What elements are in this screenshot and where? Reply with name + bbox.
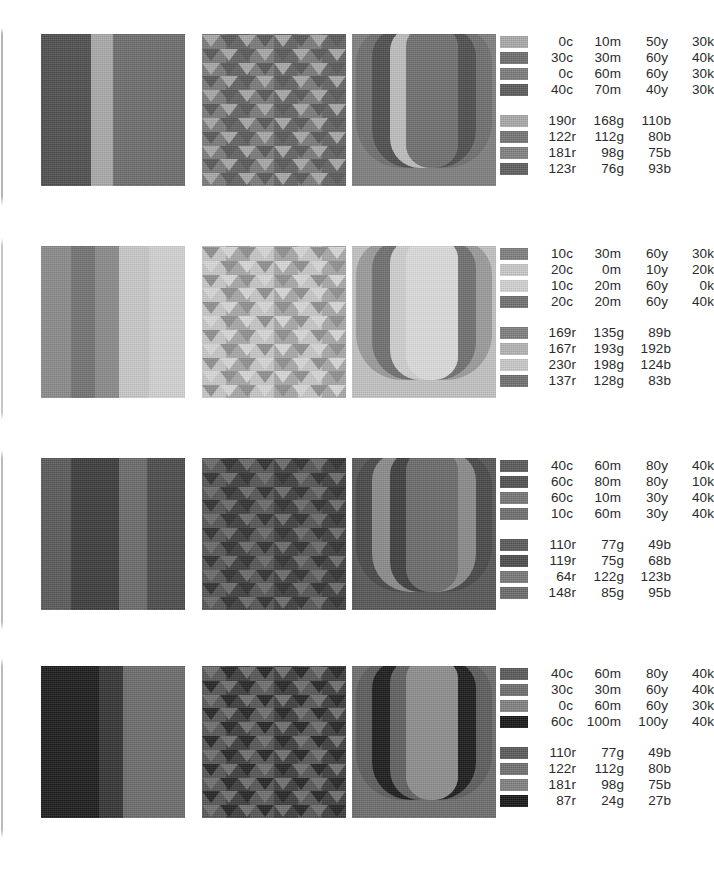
cmyk-legend-row[interactable]: 40c60m80y40k: [500, 458, 710, 474]
paper-grain-overlay: [500, 460, 528, 472]
blue-value: 68b: [624, 554, 671, 568]
yellow-value: 80y: [621, 459, 668, 473]
rgb-legend-row[interactable]: 110r77g49b: [500, 537, 710, 553]
triangle-glyph: [220, 316, 238, 328]
triangle-glyph: [202, 514, 220, 526]
triangle-glyph: [274, 302, 292, 314]
rgb-legend-row[interactable]: 148r85g95b: [500, 585, 710, 601]
rgb-legend-row[interactable]: 123r76g93b: [500, 161, 710, 177]
triangle-glyph: [256, 778, 274, 790]
green-value: 76g: [576, 162, 624, 176]
triangle-glyph: [328, 528, 346, 540]
color-swatch: [500, 327, 528, 339]
cmyk-values: 40c70m40y30k: [539, 83, 714, 97]
rgb-legend-group: 110r77g49b122r112g80b181r98g75b87r24g27b: [500, 745, 710, 809]
cmyk-values: 0c10m50y30k: [539, 35, 714, 49]
triangle-glyph: [256, 146, 274, 158]
stripe-band: [99, 666, 123, 818]
rgb-legend-row[interactable]: 167r193g192b: [500, 341, 710, 357]
triangle-glyph: [292, 459, 310, 471]
black-value: 30k: [668, 699, 714, 713]
triangle-glyph: [274, 90, 292, 102]
triangle-glyph: [202, 173, 220, 185]
color-swatch: [500, 492, 528, 504]
rgb-legend-row[interactable]: 230r198g124b: [500, 357, 710, 373]
cmyk-legend-row[interactable]: 10c60m30y40k: [500, 506, 710, 522]
paper-grain-overlay: [500, 115, 528, 127]
triangle-field: [202, 458, 346, 610]
rgb-values: 119r75g68b: [539, 554, 671, 568]
triangle-glyph: [274, 805, 292, 817]
triangle-glyph: [202, 695, 220, 707]
rgb-legend-row[interactable]: 87r24g27b: [500, 793, 710, 809]
rgb-legend-row[interactable]: 181r98g75b: [500, 145, 710, 161]
triangle-glyph: [202, 275, 220, 287]
cmyk-values: 60c100m100y40k: [539, 715, 714, 729]
triangle-glyph: [274, 132, 292, 144]
paper-grain-overlay: [500, 36, 528, 48]
triangle-glyph: [274, 63, 292, 75]
rgb-legend-row[interactable]: 122r112g80b: [500, 761, 710, 777]
triangle-glyph: [238, 473, 256, 485]
triangle-glyph: [274, 695, 292, 707]
triangle-glyph: [310, 275, 328, 287]
triangle-glyph: [328, 473, 346, 485]
rgb-legend-row[interactable]: 110r77g49b: [500, 745, 710, 761]
triangle-glyph: [310, 330, 328, 342]
cmyk-legend-row[interactable]: 20c20m60y40k: [500, 294, 710, 310]
triangle-glyph: [238, 76, 256, 88]
blue-value: 93b: [624, 162, 671, 176]
black-value: 40k: [668, 667, 714, 681]
cmyk-legend-row[interactable]: 60c10m30y40k: [500, 490, 710, 506]
rgb-legend-row[interactable]: 137r128g83b: [500, 373, 710, 389]
color-swatch: [500, 84, 528, 96]
triangle-glyph: [292, 344, 310, 356]
rgb-legend-row[interactable]: 169r135g89b: [500, 325, 710, 341]
color-scheme-row: 0c10m50y30k30c30m60y40k0c60m60y30k40c70m…: [0, 34, 710, 186]
cmyk-legend-row[interactable]: 0c10m50y30k: [500, 34, 710, 50]
cyan-value: 0c: [539, 699, 573, 713]
cmyk-legend-row[interactable]: 10c30m60y30k: [500, 246, 710, 262]
rgb-legend-row[interactable]: 181r98g75b: [500, 777, 710, 793]
triangle-glyph: [274, 681, 292, 693]
cmyk-legend-row[interactable]: 40c70m40y30k: [500, 82, 710, 98]
triangle-glyph: [292, 118, 310, 130]
triangle-glyph: [220, 487, 238, 499]
black-value: 40k: [668, 683, 714, 697]
triangle-glyph: [292, 371, 310, 383]
cmyk-legend-group: 0c10m50y30k30c30m60y40k0c60m60y30k40c70m…: [500, 34, 710, 98]
rgb-legend-row[interactable]: 122r112g80b: [500, 129, 710, 145]
cmyk-legend-row[interactable]: 0c60m60y30k: [500, 698, 710, 714]
cmyk-legend-row[interactable]: 0c60m60y30k: [500, 66, 710, 82]
cmyk-legend-row[interactable]: 30c30m60y40k: [500, 682, 710, 698]
triangle-glyph: [328, 500, 346, 512]
stripe-band: [73, 666, 99, 818]
rgb-legend-row[interactable]: 190r168g110b: [500, 113, 710, 129]
triangle-glyph: [238, 681, 256, 693]
rgb-legend-row[interactable]: 64r122g123b: [500, 569, 710, 585]
cmyk-legend-row[interactable]: 60c100m100y40k: [500, 714, 710, 730]
triangle-glyph: [274, 500, 292, 512]
triangle-glyph: [328, 132, 346, 144]
triangle-glyph: [256, 90, 274, 102]
cmyk-legend-row[interactable]: 60c80m80y10k: [500, 474, 710, 490]
magenta-value: 20m: [573, 279, 621, 293]
rgb-legend-row[interactable]: 119r75g68b: [500, 553, 710, 569]
triangle-glyph: [310, 173, 328, 185]
cmyk-legend-row[interactable]: 10c20m60y0k: [500, 278, 710, 294]
triangle-glyph: [328, 35, 346, 47]
triangle-field: [202, 34, 346, 186]
color-scheme-row: 10c30m60y30k20c0m10y20k10c20m60y0k20c20m…: [0, 246, 710, 398]
triangle-glyph: [292, 49, 310, 61]
triangle-glyph: [292, 275, 310, 287]
cmyk-legend-row[interactable]: 20c0m10y20k: [500, 262, 710, 278]
triangle-glyph: [238, 805, 256, 817]
triangle-glyph: [238, 385, 256, 397]
stripe-sample-panel: [41, 34, 185, 186]
cmyk-legend-row[interactable]: 40c60m80y40k: [500, 666, 710, 682]
black-value: 30k: [668, 35, 714, 49]
triangle-glyph: [292, 556, 310, 568]
triangle-glyph: [310, 371, 328, 383]
cmyk-legend-row[interactable]: 30c30m60y40k: [500, 50, 710, 66]
triangle-glyph: [328, 750, 346, 762]
